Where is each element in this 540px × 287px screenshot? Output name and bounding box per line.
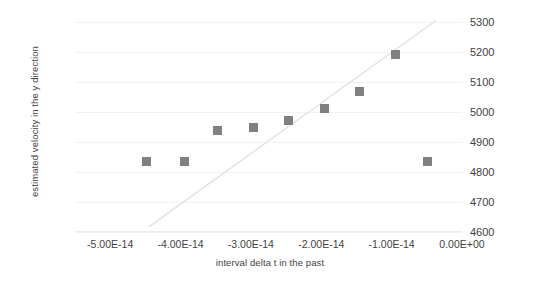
data-point	[142, 157, 151, 166]
plot-area	[75, 22, 462, 232]
data-point	[320, 104, 329, 113]
data-point	[284, 116, 293, 125]
scatter-chart: estimated velocity in the y direction 53…	[0, 0, 540, 287]
data-point	[391, 50, 400, 59]
trendline	[75, 22, 462, 232]
data-point	[355, 87, 364, 96]
x-tick-label: -5.00E-14	[87, 238, 133, 250]
gridline	[75, 232, 462, 233]
y-tick-label: 4800	[470, 166, 494, 178]
y-axis-title: estimated velocity in the y direction	[29, 22, 40, 222]
y-tick-label: 4700	[470, 196, 494, 208]
y-tick-label: 4600	[470, 226, 494, 238]
x-tick-label: -4.00E-14	[157, 238, 203, 250]
data-point	[423, 157, 432, 166]
y-tick-label: 5000	[470, 106, 494, 118]
x-tick-label: -2.00E-14	[298, 238, 344, 250]
data-point	[213, 126, 222, 135]
data-point	[249, 123, 258, 132]
y-tick-label: 4900	[470, 136, 494, 148]
y-tick-label: 5300	[470, 16, 494, 28]
y-tick-label: 5200	[470, 46, 494, 58]
data-point	[180, 157, 189, 166]
x-tick-label: -1.00E-14	[369, 238, 415, 250]
y-tick-label: 5100	[470, 76, 494, 88]
x-axis-title: interval delta t in the past	[0, 257, 540, 268]
x-tick-label: 0.00E+00	[439, 238, 484, 250]
x-tick-label: -3.00E-14	[228, 238, 274, 250]
